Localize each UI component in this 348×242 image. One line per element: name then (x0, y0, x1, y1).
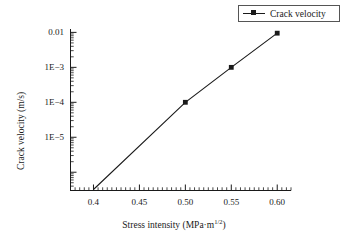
x-tick-label: 0.60 (269, 197, 285, 207)
y-tick-label: 1E−3 (14, 62, 64, 72)
legend-entry-label: Crack velocity (270, 9, 326, 19)
legend-square-marker (251, 10, 256, 15)
y-axis-ticks (71, 32, 77, 190)
y-tick-label: 0.01 (14, 27, 64, 37)
x-axis-title: Stress intensity (MPa·m1/2) (0, 218, 348, 230)
x-tick-label: 0.50 (177, 197, 193, 207)
chart-figure: 0.011E−31E−41E−5 0.40.450.500.550.60 Cra… (0, 0, 348, 242)
square-marker-icon (243, 9, 265, 18)
data-point-marker (275, 31, 280, 36)
x-axis-title-base: Stress intensity (MPa·m (122, 220, 214, 230)
crack-velocity-line (93, 33, 277, 189)
x-axis-ticks (71, 185, 292, 191)
x-tick-label: 0.45 (132, 197, 148, 207)
data-point-marker (229, 65, 234, 70)
x-tick-label: 0.4 (88, 197, 99, 207)
y-axis-title: Crack velocity (m/s) (16, 92, 26, 170)
x-tick-label: 0.55 (223, 197, 239, 207)
legend-box: Crack velocity (238, 5, 340, 22)
x-axis-title-tail: ) (222, 220, 225, 230)
data-point-marker (183, 100, 188, 105)
